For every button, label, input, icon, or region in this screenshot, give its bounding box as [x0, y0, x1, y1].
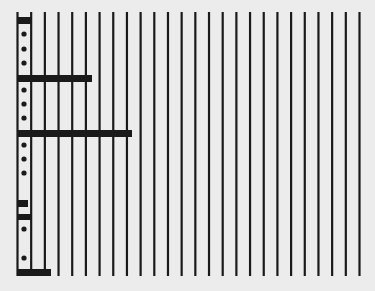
- dot-marker: [21, 87, 26, 92]
- line-bar-diagram: [0, 0, 375, 291]
- bar: [17, 214, 31, 220]
- bar: [17, 130, 132, 137]
- dot-marker: [21, 226, 26, 231]
- dot-marker: [21, 101, 26, 106]
- dot-marker: [21, 31, 26, 36]
- bar: [17, 75, 92, 82]
- bar: [17, 17, 31, 24]
- bar: [17, 200, 28, 207]
- dot-marker: [21, 170, 26, 175]
- dot-marker: [21, 46, 26, 51]
- dot-marker: [21, 255, 26, 260]
- dot-marker: [21, 142, 26, 147]
- dot-marker: [21, 60, 26, 65]
- bar: [17, 269, 51, 276]
- vertical-lines: [18, 12, 360, 276]
- dot-marker: [21, 156, 26, 161]
- horizontal-bars: [17, 17, 132, 276]
- dot-markers: [21, 31, 26, 260]
- dot-marker: [21, 115, 26, 120]
